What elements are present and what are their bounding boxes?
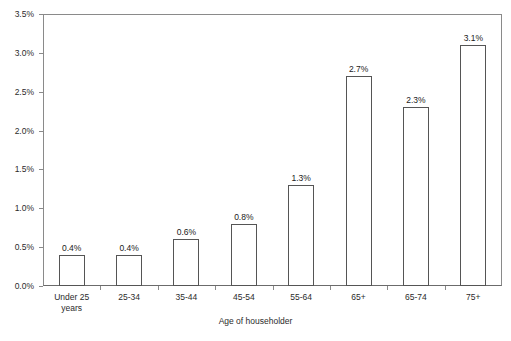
x-axis-tick-mark [387,286,388,290]
bar[interactable]: 0.6% [173,239,199,286]
y-axis-tick-mark [39,131,43,132]
x-axis-tick-mark [445,286,446,290]
bar-value-label: 3.1% [464,33,483,43]
bar-value-label: 2.3% [406,95,425,105]
x-axis-category-label: 25-34 [100,292,157,303]
x-axis-category-label: 55-64 [273,292,330,303]
y-axis-tick-label: 1.5% [15,165,34,174]
y-axis-tick-label: 2.0% [15,126,34,135]
x-axis-category-label: 75+ [445,292,502,303]
bar[interactable]: 1.3% [288,185,314,286]
y-axis-tick-label: 0.5% [15,243,34,252]
x-axis-category-label: 35-44 [158,292,215,303]
x-axis-category-label: Under 25 years [43,292,100,314]
y-axis-tick-mark [39,53,43,54]
bar-rect [231,224,257,286]
bar-chart: 0.0%0.5%1.0%1.5%2.0%2.5%3.0%3.5% 0.4%0.4… [0,0,511,341]
y-axis: 0.0%0.5%1.0%1.5%2.0%2.5%3.0%3.5% [0,0,39,341]
y-axis-tick-mark [39,169,43,170]
bar[interactable]: 2.7% [346,76,372,286]
bar-rect [116,255,142,286]
bar-rect [288,185,314,286]
x-axis-tick-mark [158,286,159,290]
x-axis-tick-mark [330,286,331,290]
bar-value-label: 2.7% [349,64,368,74]
plot-area [43,14,502,286]
y-axis-tick-mark [39,14,43,15]
x-axis-tick-mark [273,286,274,290]
bar-value-label: 0.6% [177,227,196,237]
bar-rect [460,45,486,286]
bar[interactable]: 0.8% [231,224,257,286]
bar[interactable]: 0.4% [59,255,85,286]
bar-rect [59,255,85,286]
y-axis-tick-label: 1.0% [15,204,34,213]
bar-value-label: 0.4% [119,243,138,253]
y-axis-tick-mark [39,247,43,248]
x-axis-category-label: 65-74 [387,292,444,303]
bar-value-label: 1.3% [292,173,311,183]
bar[interactable]: 0.4% [116,255,142,286]
bar-rect [403,107,429,286]
y-axis-tick-mark [39,208,43,209]
x-axis-tick-mark [100,286,101,290]
bar[interactable]: 3.1% [460,45,486,286]
x-axis-category-label: 45-54 [215,292,272,303]
bar-rect [346,76,372,286]
y-axis-tick-mark [39,286,43,287]
y-axis-tick-label: 2.5% [15,87,34,96]
y-axis-tick-mark [39,92,43,93]
x-axis-title: Age of householder [0,316,511,326]
y-axis-tick-label: 0.0% [15,282,34,291]
x-axis-tick-mark [215,286,216,290]
bar-rect [173,239,199,286]
x-axis-category-label: 65+ [330,292,387,303]
bar-value-label: 0.4% [62,243,81,253]
y-axis-tick-label: 3.5% [15,10,34,19]
bar-value-label: 0.8% [234,212,253,222]
bar[interactable]: 2.3% [403,107,429,286]
y-axis-tick-label: 3.0% [15,48,34,57]
